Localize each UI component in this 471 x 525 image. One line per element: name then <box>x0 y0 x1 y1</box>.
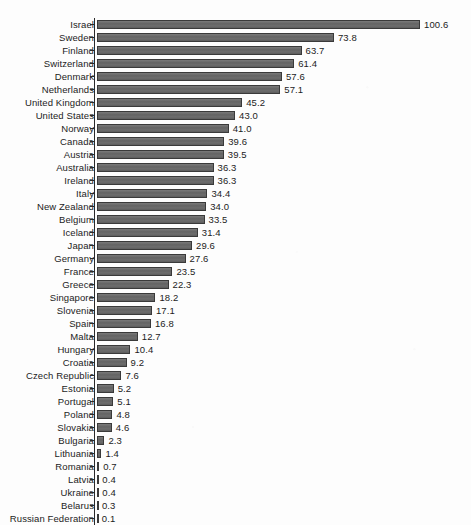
bar-fill <box>97 358 127 367</box>
bar <box>97 189 207 198</box>
category-label: Hungary <box>0 343 94 356</box>
bar-fill <box>97 228 198 237</box>
plot-area: Israel100.6Sweden73.8Finland63.7Switzerl… <box>0 18 471 525</box>
category-label: Iceland <box>0 226 94 239</box>
bar-value-label: 36.3 <box>218 174 237 187</box>
bar-fill <box>97 215 205 224</box>
bar-value-label: 43.0 <box>239 109 258 122</box>
bar-value-label: 5.1 <box>117 395 131 408</box>
axis-tick <box>90 89 94 90</box>
bar-fill <box>97 163 214 172</box>
bar-fill <box>97 176 214 185</box>
bar-value-label: 29.6 <box>196 239 215 252</box>
bar-row: Malta12.7 <box>0 330 471 343</box>
category-label: New Zealand <box>0 200 94 213</box>
bar <box>97 501 98 510</box>
category-label: Estonia <box>0 382 94 395</box>
category-label: Portugal <box>0 395 94 408</box>
axis-tick <box>90 297 94 298</box>
bar-fill <box>97 319 151 328</box>
bar-fill <box>97 462 99 471</box>
category-label: Finland <box>0 44 94 57</box>
category-label: Denmark <box>0 70 94 83</box>
bar-value-label: 39.5 <box>228 148 247 161</box>
bar-value-label: 27.6 <box>190 252 209 265</box>
bar-value-label: 34.4 <box>211 187 230 200</box>
bar-value-label: 23.5 <box>176 265 195 278</box>
bar-row: Czech Republic7.6 <box>0 369 471 382</box>
bar <box>97 46 302 55</box>
bar-fill <box>97 345 130 354</box>
bar <box>97 59 294 68</box>
bar <box>97 20 420 29</box>
bar-value-label: 61.4 <box>298 57 317 70</box>
bar-value-label: 41.0 <box>233 122 252 135</box>
bar-fill <box>97 254 186 263</box>
bar-fill <box>97 137 224 146</box>
axis-tick <box>90 128 94 129</box>
bar-row: Iceland31.4 <box>0 226 471 239</box>
category-label: Germany <box>0 252 94 265</box>
axis-tick <box>90 401 94 402</box>
bar-value-label: 33.5 <box>209 213 228 226</box>
bar-value-label: 5.2 <box>118 382 132 395</box>
axis-tick <box>90 349 94 350</box>
bar-fill <box>97 436 104 445</box>
axis-tick <box>90 440 94 441</box>
bar-row: Croatia9.2 <box>0 356 471 369</box>
bar <box>97 514 98 523</box>
category-label: Norway <box>0 122 94 135</box>
axis-tick <box>90 50 94 51</box>
bar <box>97 384 114 393</box>
bar-fill <box>97 85 280 94</box>
bar-row: New Zealand34.0 <box>0 200 471 213</box>
category-label: Canada <box>0 135 94 148</box>
bar-value-label: 100.6 <box>424 18 448 31</box>
category-label: United States <box>0 109 94 122</box>
bar <box>97 332 138 341</box>
axis-tick <box>90 193 94 194</box>
axis-tick <box>90 323 94 324</box>
bar-value-label: 0.7 <box>103 460 117 473</box>
bar-row: Spain16.8 <box>0 317 471 330</box>
bar-fill <box>97 189 207 198</box>
bar-row: Russian Federation0.1 <box>0 512 471 525</box>
axis-tick <box>90 362 94 363</box>
bar-row: Ukraine0.4 <box>0 486 471 499</box>
bar-fill <box>97 384 114 393</box>
bar-value-label: 45.2 <box>246 96 265 109</box>
bar-row: Japan29.6 <box>0 239 471 252</box>
category-label: Lithuania <box>0 447 94 460</box>
category-label: Ireland <box>0 174 94 187</box>
bar-row: Finland63.7 <box>0 44 471 57</box>
bar <box>97 267 172 276</box>
category-label: Australia <box>0 161 94 174</box>
bar-row: Belarus0.3 <box>0 499 471 512</box>
bar <box>97 475 98 484</box>
bar-row: Sweden73.8 <box>0 31 471 44</box>
bar-fill <box>97 33 334 42</box>
bar-row: Switzerland61.4 <box>0 57 471 70</box>
category-label: United Kingdom <box>0 96 94 109</box>
axis-tick <box>90 141 94 142</box>
bar-value-label: 18.2 <box>159 291 178 304</box>
bar-value-label: 16.8 <box>155 317 174 330</box>
category-label: Sweden <box>0 31 94 44</box>
axis-tick <box>90 232 94 233</box>
bar-fill <box>97 202 206 211</box>
bar-value-label: 36.3 <box>218 161 237 174</box>
bar-row: Germany27.6 <box>0 252 471 265</box>
bar <box>97 410 112 419</box>
bar-fill <box>97 501 99 510</box>
bar-value-label: 9.2 <box>131 356 145 369</box>
bar-value-label: 39.6 <box>228 135 247 148</box>
bar-fill <box>97 475 99 484</box>
category-label: Singapore <box>0 291 94 304</box>
axis-tick <box>90 167 94 168</box>
bar-row: Singapore18.2 <box>0 291 471 304</box>
bar-fill <box>97 124 229 133</box>
bar <box>97 85 280 94</box>
bar-fill <box>97 332 138 341</box>
bar-value-label: 12.7 <box>142 330 161 343</box>
bar-fill <box>97 241 192 250</box>
